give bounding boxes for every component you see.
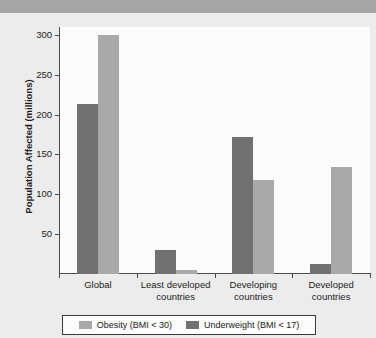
legend-label-underweight: Underweight (BMI < 17) (204, 320, 299, 330)
y-tick: 100 (0, 194, 59, 195)
y-tick: 300 (0, 35, 59, 36)
legend-item-obesity: Obesity (BMI < 30) (79, 320, 172, 330)
x-axis-tick (137, 274, 138, 278)
bar-underweight (232, 137, 253, 274)
y-tick-label: 50 (41, 228, 52, 239)
y-axis-title: Population Affected (millions) (23, 47, 34, 247)
legend-label-obesity: Obesity (BMI < 30) (97, 320, 172, 330)
bar-groups (59, 27, 370, 274)
y-tick-label: 150 (36, 148, 52, 159)
x-axis-label: Developed countries (292, 279, 370, 302)
bar-underweight (155, 250, 176, 274)
bar-underweight (77, 104, 98, 275)
x-axis-tick (59, 274, 60, 278)
bar-obesity (98, 35, 119, 274)
bar-obesity (176, 270, 197, 274)
chart-page: Population Affected (millions) 501001502… (0, 0, 376, 338)
y-tick-label: 250 (36, 69, 52, 80)
x-axis-tick (292, 274, 293, 278)
y-tick: 150 (0, 154, 59, 155)
y-tick: 50 (0, 234, 59, 235)
legend-swatch-icon-underweight (186, 321, 199, 329)
x-axis-labels: GlobalLeast developed countriesDevelopin… (59, 279, 370, 309)
chart-figure: Population Affected (millions) 501001502… (0, 13, 376, 338)
y-tick: 250 (0, 75, 59, 76)
bar-obesity (331, 167, 352, 274)
x-axis-tick (370, 274, 371, 278)
bar-obesity (253, 180, 274, 274)
bar-group (59, 27, 137, 274)
legend-swatch-icon-obesity (79, 321, 92, 329)
y-tick-label: 300 (36, 29, 52, 40)
bar-group (292, 27, 370, 274)
bar-underweight (310, 264, 331, 274)
y-tick: 200 (0, 115, 59, 116)
legend-item-underweight: Underweight (BMI < 17) (186, 320, 299, 330)
x-axis-label: Least developed countries (137, 279, 215, 302)
y-tick-label: 100 (36, 188, 52, 199)
y-tick-label: 200 (36, 109, 52, 120)
bar-group (215, 27, 293, 274)
x-axis-tick (215, 274, 216, 278)
chart-legend: Obesity (BMI < 30) Underweight (BMI < 17… (62, 315, 316, 335)
bar-group (137, 27, 215, 274)
x-axis-label: Global (59, 279, 137, 291)
x-axis-label: Developing countries (215, 279, 293, 302)
header-band (0, 0, 376, 14)
